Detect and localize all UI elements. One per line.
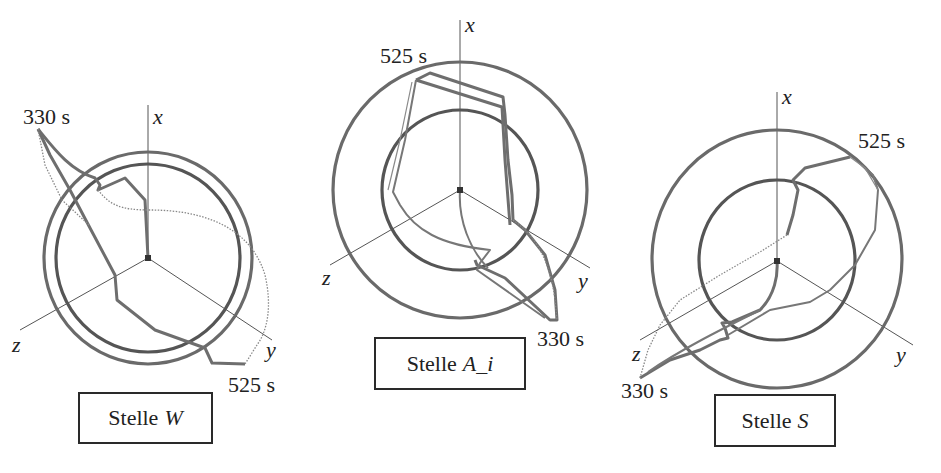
end-time-label: 525 s (228, 372, 275, 397)
panel-stelle-a-i: x z y 525 s 330 s (321, 12, 590, 351)
start-time-label: 330 s (621, 378, 668, 403)
trajectory-end-thin (850, 157, 878, 190)
trajectory-top-band (416, 80, 510, 225)
trajectory-left-thin (388, 82, 412, 190)
end-time-label: 525 s (858, 128, 905, 153)
trajectory-upper-thick (787, 157, 850, 235)
origin-marker (145, 255, 151, 261)
origin-marker (457, 187, 463, 193)
start-time-label: 330 s (23, 104, 70, 129)
caption-prefix: Stelle (741, 408, 791, 434)
z-axis-label: z (631, 341, 641, 366)
caption-box-stelle-s: StelleS (714, 394, 836, 447)
y-axis-label: y (264, 337, 276, 362)
z-axis-label: z (11, 332, 21, 357)
panel-stelle-w: x z y 330 s 525 s (11, 104, 276, 397)
trajectory-upper (38, 129, 148, 258)
z-axis-line (20, 258, 148, 330)
trajectory-lower-thick (640, 261, 777, 378)
z-axis-label: z (321, 265, 331, 290)
caption-variable: A_i (463, 351, 494, 377)
caption-box-stelle-w: StelleW (78, 392, 213, 444)
x-axis-label: x (464, 12, 475, 37)
y-axis-label: y (576, 268, 588, 293)
trajectory-center-curve (460, 190, 488, 268)
x-axis-label: x (152, 104, 163, 129)
x-axis-label: x (781, 84, 792, 109)
caption-prefix: Stelle (407, 351, 457, 377)
caption-prefix: Stelle (108, 405, 158, 431)
trajectory-right-band (416, 73, 557, 320)
end-time-label: 525 s (380, 43, 427, 68)
origin-marker (774, 258, 780, 264)
start-time-label: 330 s (537, 326, 584, 351)
caption-variable: S (798, 408, 809, 434)
y-axis-label: y (894, 342, 906, 367)
caption-box-stelle-a-i: StelleA_i (374, 337, 526, 390)
caption-variable: W (164, 405, 182, 431)
trajectory-left-loop (393, 80, 545, 318)
panel-stelle-s: x z y 525 s 330 s (621, 84, 913, 403)
